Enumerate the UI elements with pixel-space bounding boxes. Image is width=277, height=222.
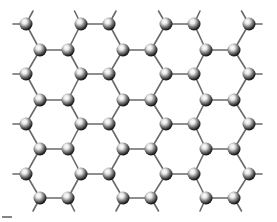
atom bbox=[20, 68, 33, 81]
atom bbox=[20, 18, 33, 31]
atom bbox=[34, 44, 47, 57]
atom bbox=[160, 18, 173, 31]
atom-layer bbox=[20, 18, 256, 205]
atom bbox=[228, 143, 241, 156]
atom bbox=[62, 143, 75, 156]
atom bbox=[20, 168, 33, 181]
atom bbox=[75, 118, 88, 131]
atom bbox=[34, 94, 47, 107]
atom bbox=[200, 192, 213, 205]
atom bbox=[103, 168, 116, 181]
atom bbox=[228, 44, 241, 57]
atom bbox=[75, 168, 88, 181]
atom bbox=[243, 68, 256, 81]
atom bbox=[188, 118, 201, 131]
atom bbox=[243, 118, 256, 131]
atom bbox=[200, 94, 213, 107]
atom bbox=[243, 18, 256, 31]
atom bbox=[117, 143, 130, 156]
atom bbox=[117, 94, 130, 107]
atom bbox=[160, 118, 173, 131]
atom bbox=[62, 94, 75, 107]
graphene-lattice-diagram bbox=[0, 0, 277, 222]
atom bbox=[145, 192, 158, 205]
atom bbox=[145, 44, 158, 57]
atom bbox=[228, 192, 241, 205]
atom bbox=[75, 68, 88, 81]
atom bbox=[62, 192, 75, 205]
atom bbox=[200, 44, 213, 57]
bond-layer bbox=[13, 11, 262, 211]
atom bbox=[103, 68, 116, 81]
atom bbox=[34, 192, 47, 205]
atom bbox=[160, 168, 173, 181]
atom bbox=[62, 44, 75, 57]
atom bbox=[188, 68, 201, 81]
atom bbox=[103, 118, 116, 131]
atom bbox=[188, 18, 201, 31]
atom bbox=[34, 143, 47, 156]
atom bbox=[200, 143, 213, 156]
atom bbox=[243, 168, 256, 181]
atom bbox=[188, 168, 201, 181]
atom bbox=[103, 18, 116, 31]
atom bbox=[117, 44, 130, 57]
atom bbox=[75, 18, 88, 31]
atom bbox=[20, 118, 33, 131]
atom bbox=[145, 143, 158, 156]
atom bbox=[145, 94, 158, 107]
atom bbox=[160, 68, 173, 81]
atom bbox=[117, 192, 130, 205]
atom bbox=[228, 94, 241, 107]
